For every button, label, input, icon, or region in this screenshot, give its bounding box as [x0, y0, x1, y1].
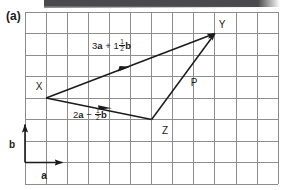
xz-coeff-b-denominator: 2: [95, 114, 101, 122]
xz-coeff-b-fraction: 12: [95, 108, 101, 123]
point-label-x: X: [36, 81, 43, 92]
grid-lines: [25, 12, 278, 184]
point-label-z: Z: [162, 125, 168, 136]
vector-diagram: b a X Y Z P: [0, 0, 303, 190]
xz-operator: −: [86, 109, 92, 120]
xy-coeff-b-fraction: 12: [119, 39, 125, 54]
point-label-p: P: [191, 77, 198, 88]
axis-a-label: a: [41, 170, 47, 181]
xy-coeff-b-numerator: 1: [119, 39, 125, 46]
xy-symbol-b: b: [125, 40, 131, 51]
xy-coeff-b-denominator: 2: [119, 45, 125, 53]
vector-xy-mid-arrow: [118, 66, 131, 72]
axis-b-label: b: [9, 139, 15, 150]
point-label-y: Y: [219, 19, 226, 30]
xz-symbol-b: b: [101, 109, 107, 120]
unit-vector-axes: [25, 125, 63, 163]
xy-operator: +: [105, 40, 111, 51]
xy-coeff-b-whole: 1: [113, 40, 118, 51]
xy-symbol-a: a: [97, 40, 102, 51]
vector-xz-expression: 2a − 12b: [73, 108, 107, 123]
vector-xy-expression: 3a + 112b: [92, 39, 131, 54]
xz-symbol-a: a: [78, 109, 83, 120]
figure-page: (a): [0, 0, 303, 190]
xz-coeff-b-numerator: 1: [95, 108, 101, 115]
